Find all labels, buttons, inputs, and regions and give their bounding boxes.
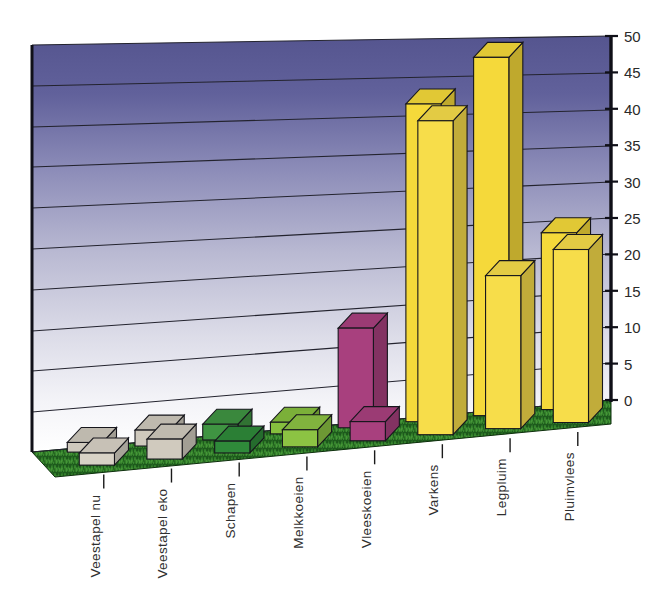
y-tick-label: 0 [624, 392, 632, 409]
chart-x-axis-labels: Veestapel nuVeestapel ekoSchapenMelkkoei… [88, 452, 577, 579]
x-axis-category-label: Veestapel eko [155, 489, 170, 579]
x-axis-category-label: Pluimvlees [562, 452, 577, 521]
x-axis-category-label: Varkens [426, 464, 441, 515]
y-tick-label: 40 [624, 101, 641, 118]
y-tick-label: 10 [624, 319, 641, 336]
y-tick-label: 35 [624, 137, 641, 154]
y-tick-label: 5 [624, 356, 632, 373]
bar-front-5 [418, 106, 467, 435]
x-axis-category-label: Melkkoeien [291, 476, 306, 548]
y-tick-label: 15 [624, 283, 641, 300]
x-axis-category-label: Legpluim [494, 458, 509, 516]
bar-front-6 [486, 261, 535, 429]
bar-front-7 [553, 235, 602, 423]
y-tick-label: 25 [624, 210, 641, 227]
three-d-bar-chart: 05101520253035404550 Veestapel nuVeestap… [0, 0, 668, 612]
y-tick-label: 30 [624, 174, 641, 191]
chart-screenshot: 05101520253035404550 Veestapel nuVeestap… [0, 0, 668, 612]
x-axis-category-label: Vleeskoeien [359, 470, 374, 548]
y-tick-label: 45 [624, 64, 641, 81]
x-axis-category-label: Schapen [223, 482, 238, 538]
x-axis-category-label: Veestapel nu [88, 495, 103, 578]
y-tick-label: 50 [624, 28, 641, 45]
y-tick-label: 20 [624, 246, 641, 263]
